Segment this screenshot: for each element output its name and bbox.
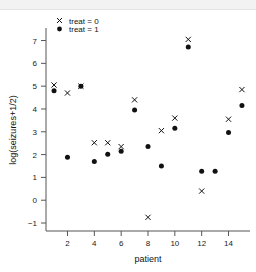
y-tick-label: 4 [33,105,38,114]
x-axis-ticks: 2468101214 [65,231,233,248]
legend: treat = 0 treat = 1 [57,17,99,34]
y-tick-label: 2 [33,151,38,160]
y-tick-label: 1 [33,173,38,182]
legend-dot-icon [57,27,62,32]
x-axis-title: patient [134,254,162,264]
y-tick-label: 5 [33,82,38,91]
data-point-dot [199,169,204,174]
y-axis-title: log(seizures+1/2) [8,95,18,164]
x-tick-label: 10 [170,239,179,248]
data-point-dot [146,144,151,149]
data-point-dot [239,103,244,108]
data-point-dot [52,88,57,93]
series-treat-1-points [52,44,245,173]
data-point-dot [92,159,97,164]
x-tick-label: 2 [65,239,70,248]
y-tick-label: 6 [33,59,38,68]
x-tick-label: 8 [146,239,151,248]
series-treat-0-points [51,37,244,220]
chart-canvas: −101234567 2468101214 treat = 0 treat = … [0,0,256,272]
data-point-dot [226,130,231,135]
axes-group [46,28,250,231]
y-tick-label: −1 [28,219,38,228]
y-tick-label: 7 [33,37,38,46]
x-tick-label: 12 [197,239,206,248]
data-point-dot [213,169,218,174]
legend-entry-treat-1: treat = 1 [57,25,99,34]
x-tick-label: 4 [92,239,97,248]
data-point-dot [186,44,191,49]
y-axis-ticks: −101234567 [28,37,46,228]
y-tick-label: 0 [33,196,38,205]
data-point-dot [105,152,110,157]
data-point-dot [172,126,177,131]
data-point-dot [65,155,70,160]
scatter-plot-figure: −101234567 2468101214 treat = 0 treat = … [0,0,256,272]
x-tick-label: 6 [119,239,124,248]
data-point-dot [78,84,83,89]
data-point-dot [132,108,137,113]
data-point-dot [159,163,164,168]
data-point-dot [119,149,124,154]
y-tick-label: 3 [33,128,38,137]
legend-cross-icon [57,18,62,23]
legend-label-treat-1: treat = 1 [69,25,99,34]
x-tick-label: 14 [224,239,233,248]
